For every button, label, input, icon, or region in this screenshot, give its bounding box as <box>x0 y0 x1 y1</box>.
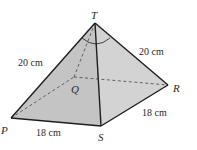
vertex-label-q: Q <box>71 83 79 95</box>
edge-label-sr: 18 cm <box>142 107 167 118</box>
vertex-label-t: T <box>91 9 98 21</box>
vertex-label-p: P <box>0 124 8 136</box>
vertex-label-s: S <box>98 131 104 143</box>
pyramid-diagram: T Q R P S 20 cm 20 cm 18 cm 18 cm <box>0 0 197 150</box>
vertex-label-r: R <box>172 82 180 94</box>
edge-label-tp: 20 cm <box>18 57 43 68</box>
edge-label-ps: 18 cm <box>36 127 61 138</box>
edge-label-tr: 20 cm <box>139 46 164 57</box>
face-tps <box>11 23 101 126</box>
